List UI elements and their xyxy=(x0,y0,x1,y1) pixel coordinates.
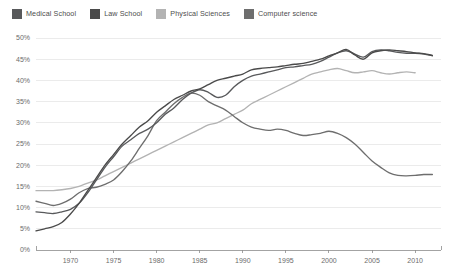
y-axis-tick-label: 10% xyxy=(16,204,30,211)
y-axis-tick-label: 25% xyxy=(16,140,30,147)
y-axis-tick-label: 40% xyxy=(16,77,30,84)
x-axis-tick-label: 2010 xyxy=(407,257,423,264)
y-axis-tick-label: 20% xyxy=(16,162,30,169)
x-axis-tick-label: 2000 xyxy=(321,257,337,264)
series-line-physical-sciences xyxy=(36,69,415,191)
x-axis-tick-label: 2005 xyxy=(364,257,380,264)
y-axis-tick-label: 15% xyxy=(16,183,30,190)
x-axis-tick-label: 1970 xyxy=(63,257,79,264)
series-line-law-school xyxy=(36,49,432,231)
x-axis-tick-label: 1985 xyxy=(192,257,208,264)
y-axis-tick-label: 35% xyxy=(16,98,30,105)
x-axis-tick-label: 1980 xyxy=(149,257,165,264)
x-axis-tick-label: 1975 xyxy=(106,257,122,264)
y-axis-tick-label: 30% xyxy=(16,119,30,126)
gridlines-group xyxy=(36,38,441,229)
y-axis-ticks-group: 0%5%10%15%20%25%30%35%40%45%50% xyxy=(16,34,30,253)
line-chart-svg: 0%5%10%15%20%25%30%35%40%45%50% 19701975… xyxy=(0,0,449,275)
x-axis-group: 197019751980198519901995200020052010 xyxy=(36,246,441,264)
plot-area: 0%5%10%15%20%25%30%35%40%45%50% 19701975… xyxy=(0,0,449,275)
series-group xyxy=(36,49,432,231)
y-axis-tick-label: 5% xyxy=(20,225,30,232)
y-axis-tick-label: 0% xyxy=(20,246,30,253)
chart-container: Medical School Law School Physical Scien… xyxy=(0,0,449,275)
x-axis-tick-label: 1990 xyxy=(235,257,251,264)
series-line-computer-science xyxy=(36,93,432,205)
series-line-medical-school xyxy=(36,50,432,214)
y-axis-tick-label: 50% xyxy=(16,34,30,41)
x-axis-tick-label: 1995 xyxy=(278,257,294,264)
y-axis-tick-label: 45% xyxy=(16,56,30,63)
